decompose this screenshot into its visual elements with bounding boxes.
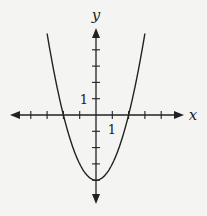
x-axis-label: x [189,106,198,124]
y-axis-down-arrow-icon [92,194,100,204]
arrowheads [10,28,184,204]
parabola-chart: y x 1 1 [0,0,207,216]
y-axis-label: y [91,6,101,24]
y-unit-label: 1 [80,92,88,107]
x-axis-right-arrow-icon [174,111,184,119]
x-axis-left-arrow-icon [10,111,20,119]
x-unit-label: 1 [108,122,116,137]
y-axis-up-arrow-icon [92,28,100,38]
axes [14,30,180,202]
